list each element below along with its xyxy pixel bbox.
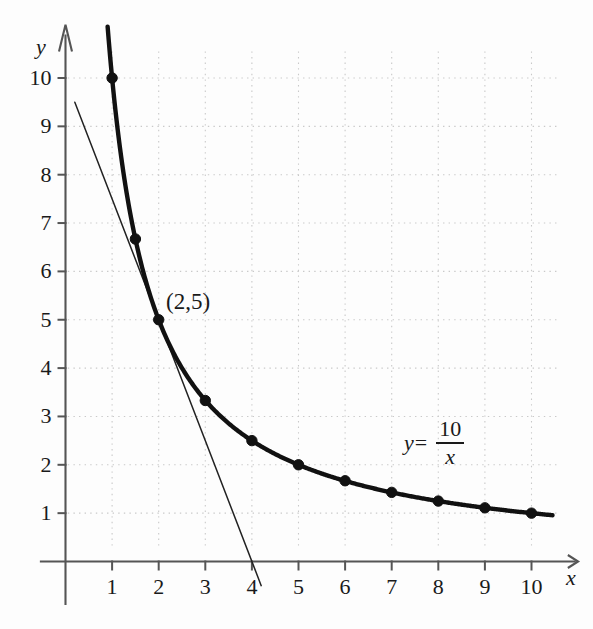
y-tick-label-8: 8	[10, 164, 52, 186]
x-tick-label-10: 10	[512, 576, 552, 598]
x-tick-label-9: 9	[465, 576, 505, 598]
y-tick-label-5: 5	[10, 309, 52, 331]
point-annotation-2-5: (2,5)	[166, 290, 210, 313]
chart-figure: 1234567891012345678910 y x (2,5) y = 10 …	[0, 0, 593, 629]
y-axis-label: y	[36, 36, 46, 58]
x-tick-label-2: 2	[139, 576, 179, 598]
axes	[40, 25, 578, 605]
x-tick-label-3: 3	[185, 576, 225, 598]
y-tick-label-1: 1	[10, 502, 52, 524]
equation-lhs: y	[404, 432, 414, 454]
equation-fraction: 10 x	[436, 418, 464, 468]
y-tick-label-10: 10	[10, 67, 52, 89]
equation-equals-sign: =	[415, 432, 427, 454]
y-tick-label-9: 9	[10, 115, 52, 137]
y-tick-label-6: 6	[10, 260, 52, 282]
y-tick-label-2: 2	[10, 454, 52, 476]
y-tick-label-7: 7	[10, 212, 52, 234]
plot-canvas	[0, 0, 593, 629]
y-tick-label-3: 3	[10, 405, 52, 427]
equation-numerator: 10	[436, 418, 464, 442]
x-axis-label: x	[566, 567, 576, 589]
y-tick-label-4: 4	[10, 357, 52, 379]
x-tick-label-6: 6	[325, 576, 365, 598]
x-tick-label-7: 7	[372, 576, 412, 598]
x-tick-label-8: 8	[418, 576, 458, 598]
x-tick-label-4: 4	[232, 576, 272, 598]
equation-label: y = 10 x	[404, 418, 464, 468]
equation-denominator: x	[442, 444, 458, 468]
x-tick-label-5: 5	[279, 576, 319, 598]
x-tick-label-1: 1	[92, 576, 132, 598]
